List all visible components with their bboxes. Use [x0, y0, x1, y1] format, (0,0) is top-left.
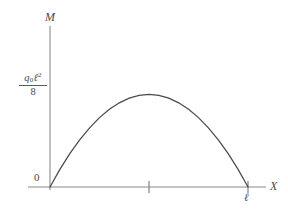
- origin-label: 0: [34, 172, 40, 183]
- peak-moment-denominator: 8: [13, 86, 53, 98]
- x-axis-label: X: [270, 180, 277, 192]
- y-tick-label-peak-moment: q0ℓ2 8: [13, 72, 53, 98]
- plot-canvas: [0, 0, 288, 214]
- bending-moment-diagram: M X 0 ℓ q0ℓ2 8: [0, 0, 288, 214]
- x-tick-label-span-end: ℓ: [244, 192, 249, 203]
- numerator-ell-exponent: 2: [38, 71, 42, 79]
- y-axis-label: M: [45, 11, 55, 23]
- moment-curve: [50, 95, 248, 188]
- peak-moment-numerator: q0ℓ2: [13, 72, 53, 85]
